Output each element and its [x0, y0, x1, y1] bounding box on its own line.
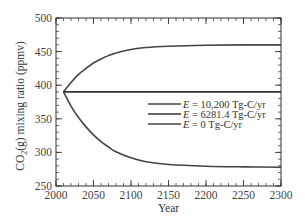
x-tick-label: 2150 — [157, 189, 180, 201]
y-tick-labels: 250300350400450500 — [35, 12, 53, 192]
x-tick-label: 2050 — [82, 189, 105, 201]
y-tick-label: 350 — [35, 113, 53, 125]
y-tick-label: 400 — [35, 79, 53, 91]
chart: 250300350400450500 200020502100215022002… — [0, 0, 305, 217]
series-line-0 — [64, 45, 282, 92]
y-axis-title-post: (g) mixing ratio (ppmv) — [14, 41, 27, 151]
x-tick-label: 2100 — [120, 189, 143, 201]
x-tick-label: 2000 — [45, 189, 68, 201]
x-tick-labels: 2000205021002150220022502300 — [45, 189, 293, 201]
y-axis-title-pre: CO — [14, 155, 26, 171]
y-tick-label: 450 — [35, 46, 53, 58]
y-tick-label: 300 — [35, 146, 53, 158]
x-axis-title: Year — [158, 202, 179, 214]
x-tick-label: 2300 — [270, 189, 293, 201]
legend: E = 10,200 Tg-C/yrE = 6281.4 Tg-C/yrE = … — [148, 99, 266, 130]
legend-item: E = 0 Tg-C/yr — [148, 119, 243, 130]
y-axis-title: CO2(g) mixing ratio (ppmv) — [14, 41, 29, 171]
legend-label: E = 0 Tg-C/yr — [182, 119, 243, 130]
x-tick-label: 2200 — [195, 189, 218, 201]
y-tick-label: 500 — [35, 12, 53, 24]
x-tick-label: 2250 — [232, 189, 255, 201]
